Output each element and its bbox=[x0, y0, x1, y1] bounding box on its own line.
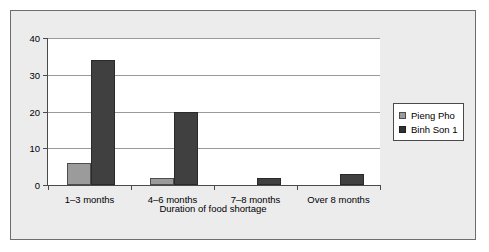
bar-group-3 bbox=[214, 38, 297, 185]
x-tick-2 bbox=[214, 185, 215, 190]
bar-group-1 bbox=[48, 38, 131, 185]
plot-area: 40 30 20 10 0 bbox=[47, 38, 380, 186]
y-axis-label-40: 40 bbox=[29, 33, 40, 44]
bar-binh-son-1-4[interactable] bbox=[340, 174, 364, 185]
legend-swatch-dark-icon bbox=[399, 126, 406, 133]
x-axis-title: Duration of food shortage bbox=[47, 203, 379, 214]
y-axis-label-20: 20 bbox=[29, 106, 40, 117]
legend-label-pieng-pho: Pieng Pho bbox=[411, 110, 455, 121]
x-tick-3 bbox=[297, 185, 298, 190]
chart-frame: 40 30 20 10 0 bbox=[10, 10, 476, 240]
bar-group-2 bbox=[131, 38, 214, 185]
y-axis-label-10: 10 bbox=[29, 143, 40, 154]
bar-binh-son-1-2[interactable] bbox=[174, 112, 198, 186]
y-axis-label-30: 30 bbox=[29, 69, 40, 80]
bar-pieng-pho-2[interactable] bbox=[150, 178, 174, 185]
bar-binh-son-1-3[interactable] bbox=[257, 178, 281, 185]
legend-label-binh-son-1: Binh Son 1 bbox=[411, 124, 457, 135]
bar-pieng-pho-1[interactable] bbox=[67, 163, 91, 185]
chart-legend: Pieng Pho Binh Son 1 bbox=[393, 103, 464, 141]
bar-group-4 bbox=[297, 38, 380, 185]
x-tick-4 bbox=[380, 185, 381, 190]
x-tick-1 bbox=[131, 185, 132, 190]
legend-item-binh-son-1[interactable]: Binh Son 1 bbox=[399, 122, 457, 136]
x-tick-0 bbox=[48, 185, 49, 190]
bar-binh-son-1-1[interactable] bbox=[91, 60, 115, 185]
y-axis-label-0: 0 bbox=[35, 180, 40, 191]
legend-swatch-light-icon bbox=[399, 112, 406, 119]
legend-item-pieng-pho[interactable]: Pieng Pho bbox=[399, 108, 457, 122]
